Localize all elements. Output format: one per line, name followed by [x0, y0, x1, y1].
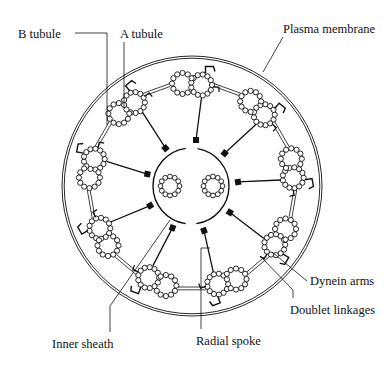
label-dynein-arms: Dynein arms — [310, 275, 374, 288]
central-microtubule — [201, 174, 225, 198]
doublet — [235, 146, 314, 218]
label-doublet-linkages: Doublet linkages — [290, 304, 375, 317]
doublet — [78, 190, 155, 259]
label-b-tubule: B tubule — [18, 28, 61, 41]
central-pair — [158, 174, 225, 198]
inner-sheath — [153, 148, 229, 223]
label-a-tubule: A tubule — [120, 28, 163, 41]
doublet — [169, 67, 241, 144]
doublet — [114, 224, 179, 299]
leader-b-tubule — [75, 33, 107, 125]
doublet — [76, 122, 151, 191]
doublet — [178, 227, 249, 306]
doublet — [220, 88, 289, 157]
label-radial-spoke: Radial spoke — [196, 335, 261, 348]
doublet — [106, 81, 170, 153]
label-plasma-membrane: Plasma membrane — [283, 23, 375, 36]
label-inner-sheath: Inner sheath — [52, 338, 113, 351]
central-microtubule — [158, 174, 182, 198]
leader-doublet-linkages — [260, 256, 293, 298]
microtubule-doublets — [76, 67, 313, 306]
leader-plasma-membrane — [263, 37, 283, 72]
